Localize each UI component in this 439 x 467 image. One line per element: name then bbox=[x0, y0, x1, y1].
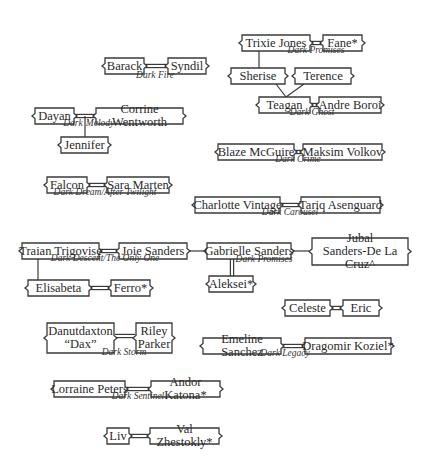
person-node-andor[interactable]: Andor Katona* bbox=[148, 381, 223, 397]
person-name: Traian Trigovise bbox=[19, 245, 102, 258]
person-name: Maksim Volkov bbox=[303, 146, 383, 159]
person-name: Andor Katona* bbox=[148, 376, 223, 402]
person-name: Barack bbox=[107, 60, 142, 73]
person-name: Jubal Sanders-De La Cruz^ bbox=[309, 232, 411, 271]
person-name: Falcon bbox=[50, 179, 84, 192]
person-name: Sherise bbox=[240, 70, 277, 83]
person-node-aleksei[interactable]: Aleksei* bbox=[206, 276, 256, 292]
person-node-ferro[interactable]: Ferro* bbox=[108, 280, 153, 296]
person-node-trixie[interactable]: Trixie Jones bbox=[239, 35, 313, 51]
person-name: Aleksei* bbox=[209, 278, 253, 291]
person-name: Dayan bbox=[38, 110, 71, 123]
person-name: Elisabeta bbox=[36, 282, 82, 295]
person-node-barack[interactable]: Barack bbox=[102, 58, 147, 74]
person-node-sara[interactable]: Sara Marten bbox=[104, 177, 172, 193]
person-node-maksim[interactable]: Maksim Volkov bbox=[300, 144, 385, 160]
person-node-jubal[interactable]: Jubal Sanders-De La Cruz^ bbox=[309, 238, 411, 265]
person-name: Riley Parker bbox=[138, 325, 171, 351]
person-name: Val Zhestokly* bbox=[147, 423, 222, 449]
person-name: Sara Marten bbox=[107, 179, 168, 192]
person-name: Trixie Jones bbox=[245, 37, 306, 50]
person-node-falcon[interactable]: Falcon bbox=[44, 177, 90, 193]
person-node-sherise[interactable]: Sherise bbox=[228, 68, 288, 84]
person-node-charlotte[interactable]: Charlotte Vintage bbox=[192, 197, 283, 213]
person-name: Corrine Wentworth bbox=[93, 103, 186, 129]
person-node-dayan[interactable]: Dayan bbox=[32, 108, 77, 124]
person-node-traian[interactable]: Traian Trigovise bbox=[19, 243, 102, 259]
person-name: Joie Sanders bbox=[122, 245, 185, 258]
person-name: Celeste bbox=[289, 302, 326, 315]
person-node-dax[interactable]: Danutdaxton “Dax” bbox=[44, 323, 117, 353]
person-name: Danutdaxton “Dax” bbox=[48, 325, 113, 351]
person-name: Dragomir Koziel* bbox=[302, 340, 393, 353]
person-node-eric[interactable]: Eric bbox=[340, 300, 382, 316]
family-tree-diagram: BarackSyndilTrixie JonesFane*SheriseTere… bbox=[0, 0, 439, 467]
person-node-corrine[interactable]: Corrine Wentworth bbox=[93, 108, 186, 124]
person-name: Lorraine Peters bbox=[51, 383, 128, 396]
person-node-liv[interactable]: Liv bbox=[104, 428, 132, 444]
person-node-fane[interactable]: Fane* bbox=[320, 35, 365, 51]
person-name: Charlotte Vintage bbox=[193, 199, 281, 212]
person-name: Teagan bbox=[267, 99, 303, 112]
person-node-tariq[interactable]: Tariq Asenguard bbox=[298, 197, 383, 213]
person-name: Tariq Asenguard bbox=[299, 199, 382, 212]
person-node-andre[interactable]: Andre Boroi bbox=[316, 97, 384, 113]
person-node-val[interactable]: Val Zhestokly* bbox=[147, 428, 222, 444]
person-name: Andre Boroi bbox=[319, 99, 382, 112]
person-node-gabrielle[interactable]: Gabrielle Sanders bbox=[204, 243, 294, 259]
person-node-joie[interactable]: Joie Sanders bbox=[116, 243, 190, 259]
person-node-syndil[interactable]: Syndil bbox=[165, 58, 209, 74]
person-name: Terence bbox=[303, 70, 342, 83]
person-name: Syndil bbox=[171, 60, 204, 73]
person-node-blaze[interactable]: Blaze McGuire bbox=[215, 144, 297, 160]
person-name: Gabrielle Sanders bbox=[204, 245, 293, 258]
person-node-dragomir[interactable]: Dragomir Koziel* bbox=[302, 338, 394, 354]
person-name: Liv bbox=[109, 430, 126, 443]
person-name: Ferro* bbox=[114, 282, 147, 295]
person-name: Emeline Sanchez bbox=[200, 333, 284, 359]
person-node-terence[interactable]: Terence bbox=[292, 68, 354, 84]
person-node-emeline[interactable]: Emeline Sanchez bbox=[200, 338, 284, 354]
person-name: Eric bbox=[351, 302, 372, 315]
person-node-riley[interactable]: Riley Parker bbox=[133, 323, 175, 353]
person-name: Jennifer bbox=[64, 139, 104, 152]
person-node-elisabeta[interactable]: Elisabeta bbox=[25, 280, 92, 296]
person-name: Fane* bbox=[327, 37, 358, 50]
person-node-jennifer[interactable]: Jennifer bbox=[58, 137, 111, 153]
person-node-celeste[interactable]: Celeste bbox=[282, 300, 333, 316]
person-node-lorraine[interactable]: Lorraine Peters bbox=[51, 381, 128, 397]
person-name: Blaze McGuire bbox=[218, 146, 295, 159]
